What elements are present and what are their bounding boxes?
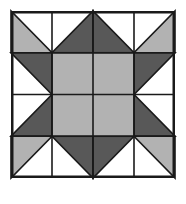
quilt-block-figure (0, 0, 186, 204)
quilt-block-svg (0, 0, 186, 204)
quilt-block-layer (11, 11, 175, 178)
